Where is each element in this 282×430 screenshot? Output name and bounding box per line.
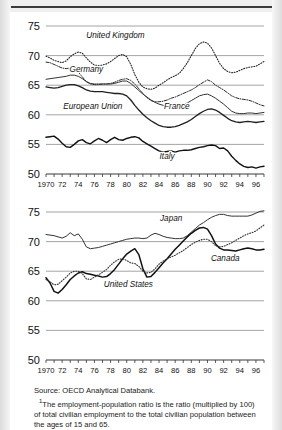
- x-tick-label: 74: [74, 180, 82, 189]
- y-tick-label: 55: [28, 138, 40, 150]
- x-tick-label: 74: [74, 366, 82, 375]
- x-tick-label: 92: [219, 180, 227, 189]
- x-tick-label: 94: [236, 180, 244, 189]
- x-tick-label: 80: [123, 180, 131, 189]
- series-label-united-states: United States: [104, 280, 153, 289]
- y-tick-label: 55: [28, 324, 40, 336]
- x-tick-label: 1970: [38, 366, 55, 375]
- series-label-european-union: European Union: [63, 102, 123, 111]
- x-tick-label: 84: [155, 366, 163, 375]
- series-label-italy: Italy: [160, 152, 176, 161]
- x-tick-label: 90: [203, 366, 211, 375]
- y-tick-label: 75: [28, 20, 40, 32]
- x-tick-label: 84: [155, 180, 163, 189]
- y-tick-label: 60: [28, 109, 40, 121]
- x-tick-label: 88: [187, 366, 195, 375]
- page-left-margin: [0, 0, 10, 430]
- x-tick-label: 76: [90, 180, 98, 189]
- series-label-japan: Japan: [159, 214, 183, 223]
- x-tick-label: 76: [90, 366, 98, 375]
- series-label-france: France: [164, 102, 190, 111]
- x-tick-label: 96: [252, 180, 260, 189]
- caption-source: Source: OECD Analytical Databank.: [34, 386, 256, 396]
- top-horizontal-rule: [11, 6, 273, 8]
- y-tick-label: 70: [28, 236, 40, 248]
- x-tick-label: 86: [171, 180, 179, 189]
- y-tick-label: 65: [28, 265, 40, 277]
- x-tick-label: 90: [203, 180, 211, 189]
- figure-page: 5055606570751970727476788082848688909294…: [0, 0, 282, 430]
- x-tick-label: 92: [219, 366, 227, 375]
- chart-top-european-countries: 5055606570751970727476788082848688909294…: [10, 18, 272, 198]
- chart-bottom-japan-canada-us: 5055606570751970727476788082848688909294…: [10, 204, 272, 384]
- note-text: The employment-population ratio is the r…: [34, 400, 256, 429]
- page-right-margin: [272, 0, 282, 430]
- series-line-italy: [46, 136, 264, 168]
- figure-caption: Source: OECD Analytical Databank. 1The e…: [10, 386, 272, 430]
- y-tick-label: 60: [28, 295, 40, 307]
- x-tick-label: 1970: [38, 180, 55, 189]
- series-label-united-kingdom: United Kingdom: [86, 31, 144, 40]
- x-tick-label: 82: [139, 180, 147, 189]
- x-tick-label: 72: [58, 366, 66, 375]
- figure-content: 5055606570751970727476788082848688909294…: [10, 12, 272, 430]
- y-tick-label: 50: [28, 168, 40, 180]
- x-tick-label: 86: [171, 366, 179, 375]
- y-tick-label: 70: [28, 50, 40, 62]
- y-tick-label: 75: [28, 206, 40, 218]
- series-label-germany: Germany: [70, 65, 105, 74]
- x-tick-label: 96: [252, 366, 260, 375]
- y-tick-label: 65: [28, 79, 40, 91]
- x-tick-label: 82: [139, 366, 147, 375]
- series-label-canada: Canada: [211, 254, 240, 263]
- x-tick-label: 94: [236, 366, 244, 375]
- y-tick-label: 50: [28, 354, 40, 366]
- x-tick-label: 88: [187, 180, 195, 189]
- caption-note: 1The employment-population ratio is the …: [34, 396, 256, 430]
- x-tick-label: 72: [58, 180, 66, 189]
- x-tick-label: 80: [123, 366, 131, 375]
- x-tick-label: 78: [106, 180, 114, 189]
- x-tick-label: 78: [106, 366, 114, 375]
